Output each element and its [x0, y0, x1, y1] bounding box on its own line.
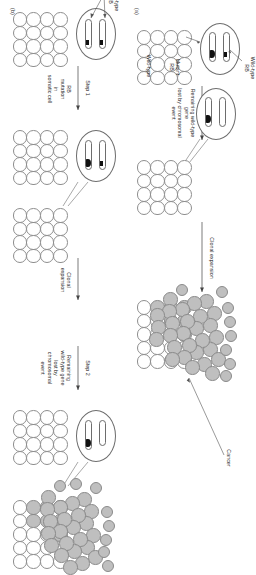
tissue-cell	[164, 187, 179, 202]
tissue-cell	[137, 187, 152, 202]
panel-a-label-clonal-expansion: Clonal expansion	[209, 225, 215, 291]
tumor-cell	[176, 284, 188, 296]
tumor-cell	[54, 480, 66, 492]
panel-a-label-tissue-wildtype: Wild-type	[146, 36, 152, 96]
tissue-cell	[150, 174, 165, 189]
panel-a-label-step-detail: Remaining wild-type gene lost by chromos…	[170, 83, 196, 143]
tumor-cell	[150, 332, 165, 347]
tumor-cell	[102, 560, 114, 572]
tissue-cell	[150, 354, 165, 369]
tissue-cell	[26, 541, 41, 556]
chromosome-mutant-a2	[205, 97, 212, 127]
tumor-cell	[70, 478, 82, 490]
tumor-cell	[64, 560, 79, 575]
tumor-cell	[98, 546, 110, 558]
tissue-cell	[13, 500, 28, 515]
tumor-cell	[101, 506, 113, 518]
tissue-cell	[13, 554, 28, 569]
tissue-cell	[40, 554, 55, 569]
tumor-cell	[216, 286, 228, 298]
tissue-cell	[13, 527, 28, 542]
tissue-cell	[26, 500, 41, 515]
tumor-cell	[220, 344, 232, 356]
tumor-cell	[220, 370, 232, 382]
tumor-cell	[224, 316, 236, 328]
tissue-cell	[137, 354, 152, 369]
tissue-cell	[137, 160, 152, 175]
panel-a-label-cancer: Cancer	[226, 441, 232, 475]
tissue-cell	[150, 187, 165, 202]
panel-b-sporadic: (b)	[0, 0, 124, 558]
tissue-cell	[137, 300, 152, 315]
tumor-cell	[206, 366, 221, 381]
tumor-cell	[225, 330, 237, 342]
panel-a-hereditary: (a)	[124, 0, 248, 558]
panel-a-label-wildtype-rb: Wild-type RB	[243, 44, 256, 92]
tissue-cell	[26, 514, 41, 529]
tumor-cell	[224, 358, 236, 370]
tumor-cell	[103, 520, 115, 532]
tumor-cell	[90, 482, 102, 494]
tumor-cell	[166, 352, 181, 367]
locus-mutant-marker	[205, 115, 211, 123]
chromosome-lost-a2	[219, 97, 226, 127]
tumor-cell	[222, 302, 234, 314]
tissue-cell	[150, 201, 165, 216]
panel-b-final-arrow	[0, 0, 124, 558]
tissue-cell	[26, 554, 41, 569]
tissue-cell	[178, 160, 193, 175]
tissue-cell	[178, 174, 193, 189]
tissue-cell	[150, 160, 165, 175]
tumor-cell	[45, 538, 60, 553]
tissue-cell	[178, 187, 193, 202]
tissue-cell	[164, 160, 179, 175]
tumor-cell	[186, 360, 201, 375]
panel-a-nucleus-second-hit	[196, 88, 236, 140]
tumor-cell	[100, 534, 112, 546]
tissue-cell	[26, 527, 41, 542]
